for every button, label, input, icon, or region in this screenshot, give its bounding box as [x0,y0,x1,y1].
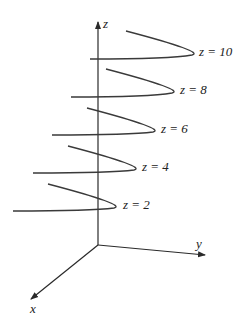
trace-label-z-4: z = 4 [141,159,169,174]
trace-z-10 [90,31,194,59]
trace-label-z-8: z = 8 [179,82,207,97]
z-axis-label: z [102,16,108,31]
y-axis-label: y [194,236,202,251]
y-axis [98,245,205,255]
trace-z-6 [52,108,155,135]
x-axis-label: x [29,301,36,316]
trace-label-z-10: z = 10 [198,44,233,59]
trace-label-z-2: z = 2 [122,197,150,212]
trace-z-8 [71,69,174,97]
trace-z-4 [33,146,136,173]
trace-label-z-6: z = 6 [160,121,188,136]
trace-z-2 [13,184,116,211]
x-axis [31,245,98,299]
trace-diagram: z y x z = 10 z = 8 z = 6 z = 4 z = 2 [0,0,250,330]
diagram-canvas: z y x z = 10 z = 8 z = 6 z = 4 z = 2 [0,0,250,330]
